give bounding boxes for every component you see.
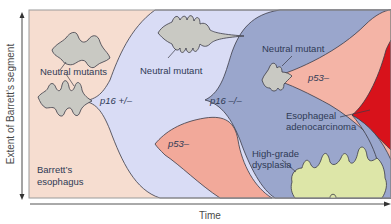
clonal-evolution-diagram: Extent of Barrett’s segment Neutral muta… [0,0,391,224]
label-neutral-mutant-right: Neutral mutant [262,43,325,54]
label-esophageal: Esophageal [286,110,336,121]
label-adenocarcinoma: adenocarcinoma [286,121,357,132]
label-p16-het: p16 +/– [99,95,133,106]
label-high-grade: High-grade [252,148,299,159]
label-barretts: Barrett’s [37,164,72,175]
x-axis-arrow-right-icon [384,202,391,207]
label-dysplasia: dysplasia [252,159,292,170]
label-neutral-mutant-middle: Neutral mutant [140,65,203,76]
label-esophagus: esophagus [37,176,84,187]
x-axis-label: Time [199,210,221,221]
y-axis-arrow-down-icon [20,194,25,200]
label-p16-null: p16 –/– [209,95,242,106]
high-grade-dysplasia-bump [330,194,336,198]
label-neutral-mutants: Neutral mutants [40,66,107,77]
y-axis: Extent of Barrett’s segment [5,12,25,200]
label-p53-loss-lower: p53– [167,138,190,149]
x-axis: Time [30,202,391,222]
y-axis-label: Extent of Barrett’s segment [5,44,16,165]
y-axis-arrow-up-icon [20,12,25,18]
label-p53-loss-upper: p53– [307,72,330,83]
